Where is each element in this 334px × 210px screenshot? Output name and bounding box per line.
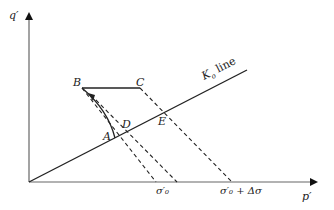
p-axis-label: p′	[302, 190, 312, 203]
point-label-e: E	[157, 115, 166, 128]
point-label-d: D	[121, 118, 131, 131]
k0-line-label: Ko line	[199, 54, 239, 84]
q-axis-label: q′	[9, 9, 19, 22]
point-label-b: B	[72, 76, 81, 89]
svg-text:Ko line: Ko line	[199, 54, 239, 84]
point-label-c: C	[136, 76, 145, 89]
point-label-a: A	[102, 130, 111, 143]
tick-label-sigma0: σ′₀	[156, 185, 169, 196]
stress-path-diagram: q′ p′ B C A D E Ko line σ′₀ σ′₀ + Δσ	[0, 0, 334, 210]
k0-label-rest: line	[211, 54, 238, 77]
dashed-line-b-through-a	[82, 88, 156, 182]
tick-label-sigma0-plus-delta: σ′₀ + Δσ	[220, 185, 263, 196]
